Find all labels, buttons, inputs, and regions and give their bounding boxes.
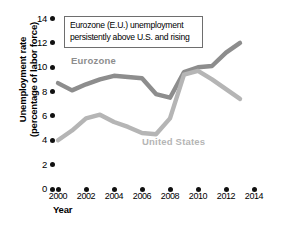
x-tick-dot-2012 [224,187,229,192]
x-tick-label-2014: 2014 [240,191,268,201]
y-tick-label-4: 4 [27,134,47,145]
series-label-eurozone: Eurozone [71,55,116,66]
y-axis-title: Unemployment rate (percentage of labor f… [18,6,39,154]
annotation-line-2: persistently above U.S. and rising [70,32,197,44]
annotation-line-1: Eurozone (E.U.) unemployment [70,20,197,32]
unemployment-line-chart: Unemployment rate (percentage of labor f… [0,0,290,228]
x-tick-dot-2008 [168,187,173,192]
x-tick-label-2010: 2010 [184,191,212,201]
series-line-united-states [58,71,240,140]
y-tick-dot-10 [50,65,55,70]
x-tick-dot-2004 [112,187,117,192]
y-tick-label-8: 8 [27,86,47,97]
y-tick-label-14: 14 [27,13,47,24]
y-tick-label-12: 12 [27,37,47,48]
y-tick-label-10: 10 [27,61,47,72]
y-tick-label-2: 2 [27,159,47,170]
y-tick-dot-4 [50,138,55,143]
annotation-callout: Eurozone (E.U.) unemployment persistentl… [64,16,203,48]
x-tick-dot-2000 [56,187,61,192]
x-tick-dot-2014 [252,187,257,192]
x-tick-label-2008: 2008 [156,191,184,201]
x-tick-label-2000: 2000 [44,191,72,201]
x-tick-dot-2002 [84,187,89,192]
x-tick-label-2004: 2004 [100,191,128,201]
x-tick-label-2002: 2002 [72,191,100,201]
series-label-united-states: United States [142,136,205,147]
y-tick-label-6: 6 [27,110,47,121]
x-tick-dot-2006 [140,187,145,192]
x-axis-title: Year [53,205,72,216]
y-axis-title-line1: Unemployment rate [17,37,28,122]
series-line-eurozone [58,43,240,98]
x-tick-dot-2010 [196,187,201,192]
x-tick-label-2006: 2006 [128,191,156,201]
x-tick-label-2012: 2012 [212,191,240,201]
